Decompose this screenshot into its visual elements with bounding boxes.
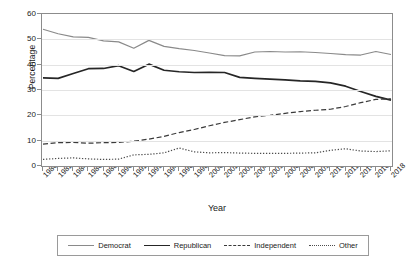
gridline: [42, 90, 392, 91]
legend-label: Republican: [174, 241, 212, 250]
y-axis-tick-label: 30: [12, 85, 36, 94]
gridline: [42, 141, 392, 142]
gridline: [42, 39, 392, 40]
y-axis-tick-label: 40: [12, 59, 36, 68]
legend-swatch-other: [309, 245, 335, 246]
legend-entry-other[interactable]: Other: [309, 241, 358, 250]
legend-swatch-democrat: [68, 245, 94, 246]
gridlines: [42, 14, 392, 166]
y-axis-tick-label: 60: [12, 9, 36, 18]
legend-entry-republican[interactable]: Republican: [144, 241, 212, 250]
legend-swatch-republican: [144, 245, 170, 246]
legend-swatch-independent: [224, 245, 250, 246]
y-axis-tick-label: 50: [12, 34, 36, 43]
legend-entry-democrat[interactable]: Democrat: [68, 241, 131, 250]
legend-label: Other: [339, 241, 358, 250]
y-axis-tick-label: 10: [12, 135, 36, 144]
y-axis-tick-label: 0: [12, 161, 36, 170]
gridline: [42, 65, 392, 66]
y-axis-tick-label: 20: [12, 110, 36, 119]
chart-legend: DemocratRepublicanIndependentOther: [57, 235, 369, 256]
legend-label: Democrat: [98, 241, 131, 250]
chart-figure: Percentage 0102030405060 198019821984198…: [0, 0, 420, 265]
legend-label: Independent: [254, 241, 296, 250]
plot-area: [41, 13, 393, 167]
legend-entry-independent[interactable]: Independent: [224, 241, 296, 250]
gridline: [42, 115, 392, 116]
x-axis-title: Year: [41, 203, 393, 213]
